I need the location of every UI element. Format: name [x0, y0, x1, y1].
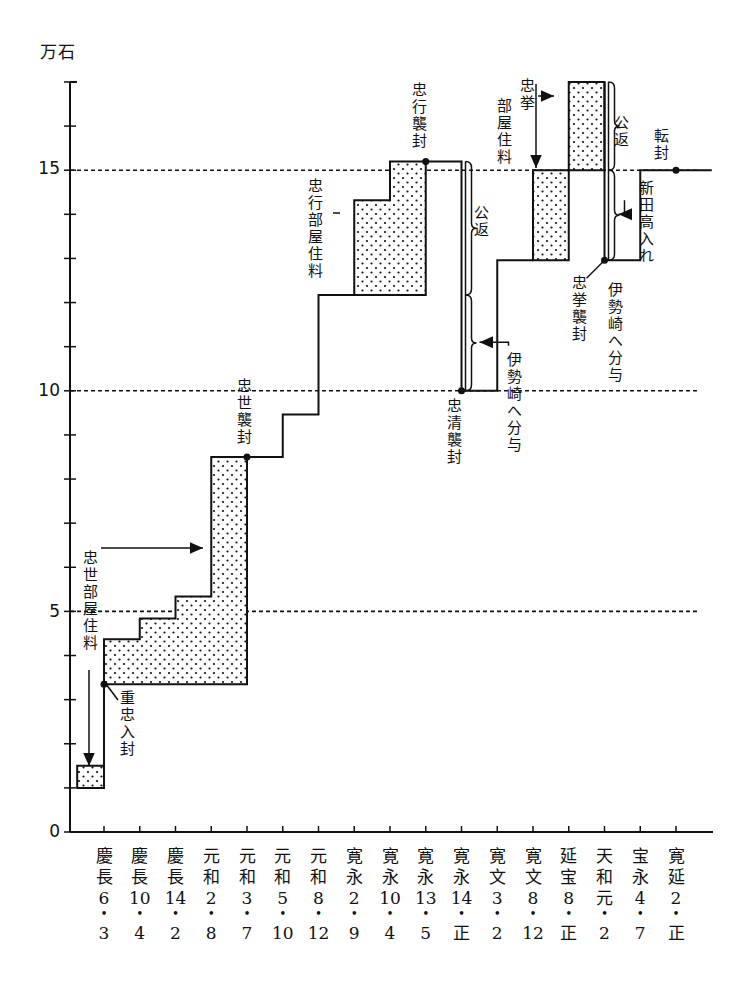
x-label-month: 7 [232, 923, 262, 944]
shaded-block [77, 766, 104, 788]
y-tick-label-15: 15 [30, 158, 60, 178]
annotation-chuusei-shuufuu: 忠世襲封 [235, 378, 251, 446]
x-label-era-char-2: 宝 [554, 867, 584, 888]
x-axis-label: 寛永2•9 [339, 846, 369, 944]
event-marker-dot [601, 257, 608, 264]
x-label-year: 4 [625, 888, 655, 909]
x-label-era-char-2: 和 [268, 867, 298, 888]
x-label-era-char-1: 慶 [125, 846, 155, 867]
x-label-year: 元 [590, 888, 620, 909]
x-axis-label: 寛永10•4 [375, 846, 405, 944]
x-label-era-char-2: 和 [590, 867, 620, 888]
shaded-block [354, 161, 426, 295]
annotation-tenpuu: 転封 [652, 128, 668, 162]
x-label-separator-dot: • [375, 909, 405, 923]
x-label-separator-dot: • [590, 909, 620, 923]
x-label-year: 8 [554, 888, 584, 909]
x-label-year: 5 [268, 888, 298, 909]
x-label-month: 4 [375, 923, 405, 944]
pointer-chuukyo-shuufuu [587, 262, 603, 278]
x-label-era-char-2: 長 [161, 867, 191, 888]
x-label-month: 10 [268, 923, 298, 944]
x-label-era-char-2: 永 [339, 867, 369, 888]
x-label-era-char-1: 宝 [625, 846, 655, 867]
x-axis-label: 寛文8•12 [518, 846, 548, 944]
annotation-chuukyo-heyazumi: 部屋住料 [495, 98, 511, 166]
x-label-month: 正 [661, 923, 691, 944]
x-axis-label: 寛延2•正 [661, 846, 691, 944]
x-label-year: 6 [89, 888, 119, 909]
annotation-shinden-takaire: 新田高入れ [637, 180, 653, 265]
x-label-era-char-1: 寛 [339, 846, 369, 867]
x-label-month: 4 [125, 923, 155, 944]
x-label-month: 5 [411, 923, 441, 944]
x-label-month: 12 [304, 923, 334, 944]
event-marker-dot [422, 158, 429, 165]
annotation-isesaki-bunyo-1: 伊勢崎へ分与 [505, 352, 521, 454]
x-label-separator-dot: • [125, 909, 155, 923]
x-label-era-char-2: 長 [89, 867, 119, 888]
x-label-month: 正 [447, 923, 477, 944]
x-label-separator-dot: • [625, 909, 655, 923]
x-axis-label: 元和8•12 [304, 846, 334, 944]
annotation-chuukou-heyazumi: 忠行部屋住料 [306, 178, 322, 280]
x-label-month: 8 [196, 923, 226, 944]
annotation-chuukyo-shuufuu: 忠挙襲封 [570, 275, 586, 343]
x-label-month: 2 [482, 923, 512, 944]
event-marker-dot [244, 453, 251, 460]
x-label-era-char-2: 永 [625, 867, 655, 888]
annotation-isesaki-bunyo-2: 伊勢崎へ分与 [606, 282, 622, 384]
x-label-era-char-2: 永 [375, 867, 405, 888]
x-label-year: 8 [518, 888, 548, 909]
x-label-separator-dot: • [447, 909, 477, 923]
shaded-block [104, 457, 247, 684]
event-marker-dot [101, 681, 108, 688]
step-line-segment [247, 295, 354, 457]
x-label-year: 2 [339, 888, 369, 909]
x-label-year: 3 [482, 888, 512, 909]
shaded-blocks [77, 82, 604, 788]
x-label-era-char-1: 寛 [518, 846, 548, 867]
annotation-chuukou-shuufuu: 忠行襲封 [410, 82, 426, 150]
x-label-era-char-1: 元 [304, 846, 334, 867]
y-tick-label-10: 10 [30, 380, 60, 400]
x-axis-label: 寛文3•2 [482, 846, 512, 944]
annotation-chuusei-heyazumi: 忠世部屋住料 [81, 550, 97, 652]
event-marker-dot [673, 167, 680, 174]
x-label-separator-dot: • [411, 909, 441, 923]
x-label-era-char-1: 元 [196, 846, 226, 867]
annotation-shigetada-nyuufuu: 重忠入封 [118, 690, 134, 758]
y-tick-label-0: 0 [30, 821, 60, 841]
x-axis-label: 寛永13•5 [411, 846, 441, 944]
x-label-year: 2 [661, 888, 691, 909]
annotation-chuusei2-shuufuu: 忠清襲封 [445, 398, 461, 466]
x-label-separator-dot: • [89, 909, 119, 923]
x-label-separator-dot: • [232, 909, 262, 923]
x-label-separator-dot: • [518, 909, 548, 923]
x-label-month: 正 [554, 923, 584, 944]
x-label-era-char-1: 延 [554, 846, 584, 867]
x-label-era-char-2: 文 [482, 867, 512, 888]
x-axis-label: 元和3•7 [232, 846, 262, 944]
x-axis-label: 元和2•8 [196, 846, 226, 944]
arrow-isesaki-2 [619, 200, 625, 214]
x-label-era-char-1: 寛 [411, 846, 441, 867]
y-axis-unit-label: 万石 [40, 38, 76, 63]
x-label-era-char-1: 寛 [482, 846, 512, 867]
x-label-separator-dot: • [268, 909, 298, 923]
x-label-month: 9 [339, 923, 369, 944]
x-label-era-char-2: 永 [411, 867, 441, 888]
chart-container: 万石 0 5 10 15 忠世部屋住料 重忠入封 忠世襲封 忠行部屋住料 忠行襲… [0, 0, 736, 985]
annotation-kouhen-2: 公返 [612, 115, 628, 149]
step-line-segment [605, 82, 712, 260]
x-label-era-char-2: 和 [196, 867, 226, 888]
x-label-era-char-1: 慶 [89, 846, 119, 867]
x-label-era-char-2: 文 [518, 867, 548, 888]
x-label-separator-dot: • [339, 909, 369, 923]
x-label-era-char-1: 寛 [375, 846, 405, 867]
y-tick-label-5: 5 [30, 601, 60, 621]
axes [64, 82, 713, 832]
x-label-era-char-1: 元 [268, 846, 298, 867]
x-label-year: 10 [375, 888, 405, 909]
x-axis-label: 宝永4•7 [625, 846, 655, 944]
